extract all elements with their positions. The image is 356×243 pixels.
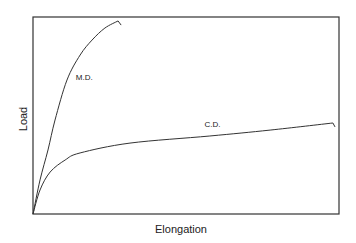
series-layer: [33, 21, 335, 214]
annotation-c-d: C.D.: [204, 120, 220, 129]
annotation-layer: M.D.C.D.: [76, 73, 221, 129]
chart: Elongation Load M.D.C.D.: [0, 0, 356, 243]
series-line-c-d: [33, 123, 335, 214]
x-axis-label: Elongation: [155, 223, 207, 235]
annotation-m-d: M.D.: [76, 73, 93, 82]
plot-frame: [33, 17, 339, 214]
y-axis-label: Load: [17, 107, 29, 131]
series-line-m-d: [33, 21, 121, 214]
